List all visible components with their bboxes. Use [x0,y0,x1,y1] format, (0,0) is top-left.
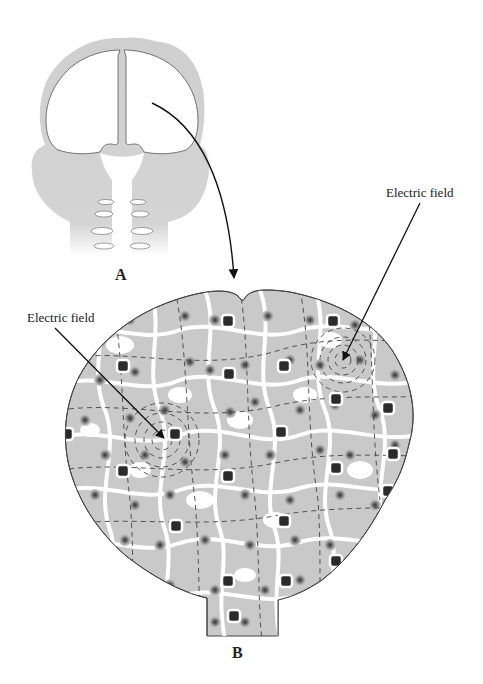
panel-b-brain-tissue [60,290,430,640]
panel-a-head [32,37,209,256]
panel-label-b: B [232,644,243,662]
electric-field-label-right: Electric field [386,185,454,201]
diagram-canvas [0,0,483,684]
panel-label-a: A [115,266,127,284]
electric-field-label-left: Electric field [27,310,95,326]
